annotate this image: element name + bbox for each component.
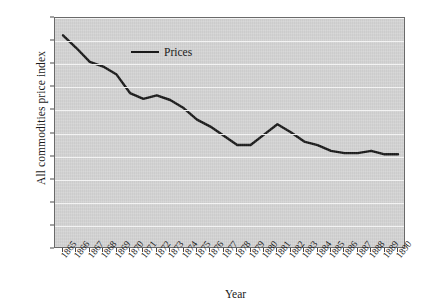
gridline xyxy=(55,64,404,65)
legend-label-prices: Prices xyxy=(164,46,192,58)
gridline xyxy=(55,203,404,204)
plot-area: Prices xyxy=(54,17,405,248)
y-tick-mark xyxy=(50,86,54,87)
x-axis-title: Year xyxy=(0,288,421,300)
price-index-line-chart: All commodities price index Prices 02040… xyxy=(0,0,421,307)
gridline xyxy=(55,134,404,135)
y-tick-mark xyxy=(50,63,54,64)
gridline xyxy=(55,226,404,227)
legend: Prices xyxy=(131,46,192,58)
y-tick-mark xyxy=(50,132,54,133)
gridline xyxy=(55,41,404,42)
gridline xyxy=(55,180,404,181)
gridline xyxy=(55,110,404,111)
series-line-prices xyxy=(63,35,398,154)
legend-swatch-prices xyxy=(131,51,159,54)
y-tick-mark xyxy=(50,248,54,249)
y-tick-mark xyxy=(50,40,54,41)
y-tick-mark xyxy=(50,109,54,110)
y-axis-title: All commodities price index xyxy=(35,0,47,243)
gridline xyxy=(55,157,404,158)
y-tick-mark xyxy=(50,17,54,18)
y-tick-mark xyxy=(50,155,54,156)
gridline xyxy=(55,18,404,19)
y-tick-mark xyxy=(50,178,54,179)
gridline xyxy=(55,87,404,88)
y-tick-mark xyxy=(50,201,54,202)
y-tick-mark xyxy=(50,224,54,225)
